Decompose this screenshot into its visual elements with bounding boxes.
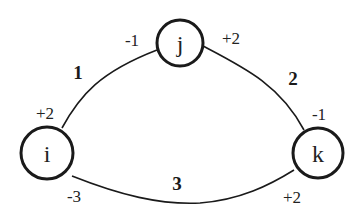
port-j-to-k: +2 [222,29,240,48]
node-j-label: j [176,31,184,57]
node-k-label: k [312,141,324,167]
port-k-from-i: +2 [283,188,301,207]
edge-i-j-weight: 1 [73,62,83,83]
graph-diagram: j i k 1 2 3 +2 -1 +2 -1 -3 +2 [0,0,364,217]
node-k: k [293,128,343,178]
port-i-to-j: +2 [36,104,54,123]
edge-j-k-weight: 2 [288,68,298,89]
node-i: i [21,127,73,179]
edge-i-k-weight: 3 [172,173,182,194]
port-i-to-k: -3 [67,187,81,206]
edge-i-k [72,170,294,203]
port-k-from-j: -1 [312,105,326,124]
node-i-label: i [44,141,51,167]
node-j: j [157,20,203,66]
port-j-from-i: -1 [125,31,139,50]
